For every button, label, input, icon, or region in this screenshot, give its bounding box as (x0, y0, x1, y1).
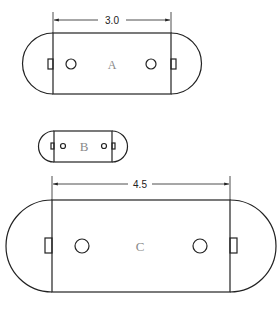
hole-right-b (102, 144, 107, 149)
hole-left-c (75, 239, 89, 253)
left-tab-c (45, 238, 52, 253)
hole-left-b (61, 144, 66, 149)
dimension-label-a: 3.0 (105, 15, 119, 26)
hole-left-a (66, 59, 76, 69)
hole-right-c (193, 239, 207, 253)
shape-c (6, 176, 276, 292)
right-tab-b (112, 143, 115, 149)
diagram-canvas: 3.0 A B 4.5 C (0, 0, 278, 310)
hole-right-a (146, 59, 156, 69)
shape-label-c: C (136, 239, 145, 254)
right-arc-b (112, 131, 128, 162)
shape-label-a: A (108, 58, 117, 72)
right-tab-c (230, 238, 237, 253)
left-arc-b (39, 131, 55, 162)
right-tab-a (171, 59, 176, 69)
shape-label-b: B (80, 139, 89, 154)
left-tab-a (48, 59, 53, 69)
dimension-label-c: 4.5 (133, 179, 147, 190)
left-tab-b (51, 143, 54, 149)
